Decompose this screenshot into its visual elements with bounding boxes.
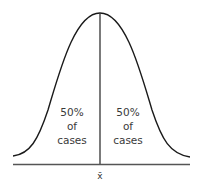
left-percent: 50% [60,106,83,118]
right-cases: cases [113,134,143,146]
mean-label: x̄ [97,171,103,181]
left-of: of [67,120,77,132]
right-of: of [123,120,133,132]
right-percent: 50% [116,106,139,118]
normal-curve-diagram: 50% of cases 50% of cases x̄ [0,0,200,190]
left-cases: cases [57,134,87,146]
bell-curve [13,13,190,157]
